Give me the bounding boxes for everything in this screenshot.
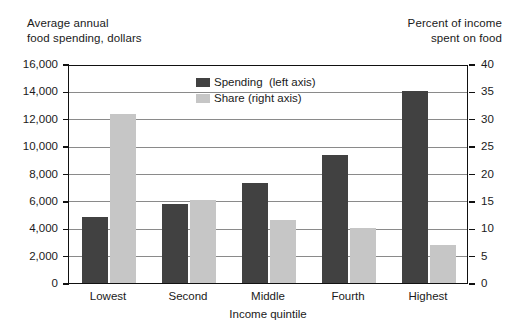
legend-item-share: Share (right axis) [196,91,316,106]
left-axis-tick [63,283,69,284]
left-axis-tick-label: 8,000 [29,169,58,181]
left-axis-tick-label: 2,000 [29,251,58,263]
left-axis-tick-label: 0 [52,278,58,290]
right-axis-tick [469,201,475,202]
right-axis-tick [469,283,475,284]
left-axis-tick-label: 16,000 [23,59,58,71]
food-spending-chart: Average annual food spending, dollars Pe… [0,0,524,336]
legend-swatch-icon [196,78,210,87]
left-axis-tick-label: 14,000 [23,86,58,98]
bar-share-second [190,200,216,283]
left-axis-tick-label: 4,000 [29,223,58,235]
left-axis-tick-label: 6,000 [29,196,58,208]
left-axis-tick-label: 10,000 [23,141,58,153]
right-axis-tick [469,146,475,147]
legend-label: Share (right axis) [214,91,302,106]
right-axis-tick-label: 10 [481,223,494,235]
right-axis-tick [469,256,475,257]
bar-spending-highest [402,91,428,283]
right-axis-caption: Percent of income spent on food [408,16,502,45]
x-axis-title: Income quintile [68,308,468,320]
right-axis-tick-label: 20 [481,169,494,181]
right-axis-tick [469,92,475,93]
right-axis-tick-label: 40 [481,59,494,71]
category-label-fourth: Fourth [308,290,388,302]
legend: Spending (left axis)Share (right axis) [196,75,316,107]
bar-share-lowest [110,114,136,283]
bar-share-fourth [350,228,376,283]
bar-spending-fourth [322,155,348,283]
bar-spending-lowest [82,217,108,283]
left-axis-caption: Average annual food spending, dollars [27,16,142,45]
right-axis-tick-label: 25 [481,141,494,153]
right-axis-tick [469,229,475,230]
bar-spending-middle [242,183,268,283]
legend-swatch-icon [196,94,210,103]
bar-spending-second [162,204,188,283]
left-axis-tick-label: 12,000 [23,114,58,126]
right-axis-tick-label: 15 [481,196,494,208]
category-label-middle: Middle [228,290,308,302]
category-label-highest: Highest [388,290,468,302]
right-axis-tick [469,174,475,175]
bar-share-highest [430,245,456,283]
right-axis-tick-label: 0 [481,278,487,290]
right-axis-tick [469,64,475,65]
legend-item-spending: Spending (left axis) [196,75,316,90]
bar-share-middle [270,220,296,284]
right-axis-tick-label: 35 [481,86,494,98]
category-label-second: Second [148,290,228,302]
right-axis-tick-label: 30 [481,114,494,126]
right-axis-tick-label: 5 [481,251,487,263]
legend-label: Spending (left axis) [214,75,316,90]
category-label-lowest: Lowest [68,290,148,302]
right-axis-tick [469,119,475,120]
